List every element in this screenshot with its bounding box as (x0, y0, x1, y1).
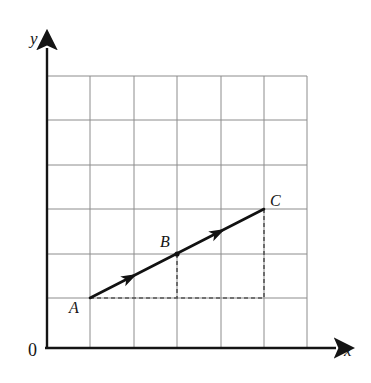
point-dot-b (174, 251, 179, 256)
grid-lines-lower (90, 298, 307, 348)
coordinate-diagram: 0 y x A B C (0, 0, 371, 383)
point-label-b: B (160, 233, 170, 250)
arrowhead-second (208, 224, 227, 241)
y-axis-label: y (28, 29, 38, 48)
origin-label: 0 (28, 340, 37, 360)
point-label-c: C (270, 192, 281, 209)
arrowhead-first (120, 269, 139, 286)
figure-container: 0 y x A B C (0, 0, 371, 383)
point-label-a: A (68, 299, 79, 316)
x-axis-label: x (343, 341, 352, 360)
